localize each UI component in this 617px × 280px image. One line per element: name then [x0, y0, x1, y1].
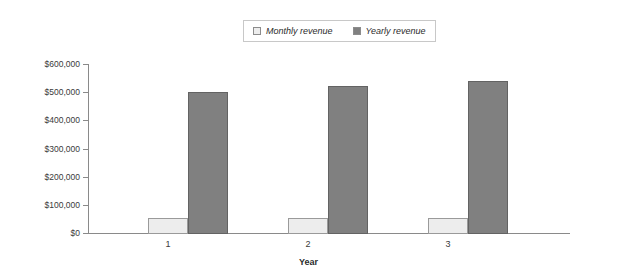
x-tick-label-1: 1 — [148, 240, 188, 249]
x-tick-label-2: 2 — [288, 240, 328, 249]
bar-chart: Monthly revenue Yearly revenue $600,000 … — [0, 0, 617, 280]
bar-yearly-year-1[interactable] — [188, 92, 228, 234]
y-tick-200000 — [83, 177, 88, 178]
legend-item-monthly-revenue[interactable]: Monthly revenue — [253, 27, 333, 36]
y-tick-label-100000: $100,000 — [22, 201, 80, 210]
legend-swatch-monthly-icon — [253, 27, 261, 35]
y-tick-label-400000: $400,000 — [22, 116, 80, 125]
y-tick-label-600000: $600,000 — [22, 60, 80, 69]
y-tick-100000 — [83, 205, 88, 206]
y-tick-label-500000: $500,000 — [22, 88, 80, 97]
legend-label-monthly: Monthly revenue — [266, 27, 333, 36]
legend-item-yearly-revenue[interactable]: Yearly revenue — [353, 27, 426, 36]
y-tick-300000 — [83, 149, 88, 150]
bar-monthly-year-2[interactable] — [288, 218, 328, 234]
y-tick-0 — [83, 233, 88, 234]
y-tick-600000 — [83, 64, 88, 65]
bar-monthly-year-3[interactable] — [428, 218, 468, 234]
y-axis-line — [88, 64, 89, 234]
legend-label-yearly: Yearly revenue — [366, 27, 426, 36]
y-tick-500000 — [83, 92, 88, 93]
x-axis-title: Year — [0, 258, 617, 267]
bar-monthly-year-1[interactable] — [148, 218, 188, 234]
bar-yearly-year-3[interactable] — [468, 81, 508, 234]
y-tick-400000 — [83, 120, 88, 121]
y-tick-label-200000: $200,000 — [22, 173, 80, 182]
y-tick-label-0: $0 — [22, 229, 80, 238]
legend-swatch-yearly-icon — [353, 27, 361, 35]
y-tick-label-300000: $300,000 — [22, 145, 80, 154]
chart-legend: Monthly revenue Yearly revenue — [243, 20, 436, 42]
bar-yearly-year-2[interactable] — [328, 86, 368, 234]
x-tick-label-3: 3 — [428, 240, 468, 249]
